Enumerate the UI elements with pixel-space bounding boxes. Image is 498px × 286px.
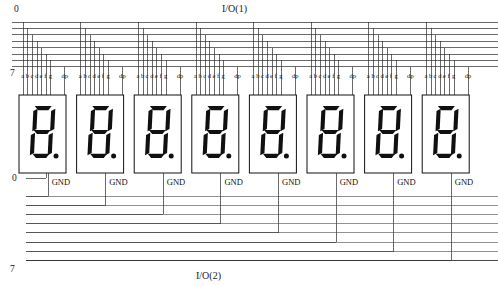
display-6-pin-label-dp: dp xyxy=(407,72,414,79)
top-bus-index-first: 0 xyxy=(14,4,19,14)
display-7-gnd-label: GND xyxy=(455,177,473,187)
display-1-decimal-point xyxy=(111,154,116,159)
display-6-pin-label-a: a xyxy=(367,72,370,79)
display-3-pin-label-dp: dp xyxy=(234,72,241,79)
display-4-pin-label-c: c xyxy=(261,72,264,79)
display-3-pin-label-g: g xyxy=(222,72,226,79)
display-5-pin-label-f: f xyxy=(332,72,335,79)
display-0-pin-label-e: e xyxy=(40,72,43,79)
display-7-pin-label-dp: dp xyxy=(465,72,472,79)
display-7-pin-label-d: d xyxy=(438,72,442,79)
display-1-pin-label-c: c xyxy=(88,72,91,79)
display-3-decimal-point xyxy=(226,154,231,159)
display-1-pin-label-a: a xyxy=(79,72,82,79)
display-6-pin-label-g: g xyxy=(394,72,398,79)
display-6-pin-label-b: b xyxy=(371,72,375,79)
display-0-pin-label-f: f xyxy=(44,72,47,79)
display-0-gnd-label: GND xyxy=(52,177,70,187)
display-7-pin-label-a: a xyxy=(424,72,427,79)
display-5-pin-label-dp: dp xyxy=(350,72,357,79)
seven-segment-display-5 xyxy=(307,95,354,173)
display-5-pin-label-g: g xyxy=(337,72,341,79)
seven-segment-display-7 xyxy=(422,95,469,173)
display-7-decimal-point xyxy=(457,154,462,159)
display-2-pin-label-a: a xyxy=(136,72,139,79)
display-5-pin-label-c: c xyxy=(318,72,321,79)
seven-segment-bus-diagram: 07I/O(1)abcdefgdpabcdefgdpabcdefgdpabcde… xyxy=(0,0,498,286)
display-3-pin-label-f: f xyxy=(217,72,220,79)
display-6-pin-label-d: d xyxy=(381,72,385,79)
display-0-pin-label-g: g xyxy=(49,72,53,79)
display-3-gnd-label: GND xyxy=(224,177,242,187)
display-5-pin-label-b: b xyxy=(314,72,318,79)
schematic-canvas: 07I/O(1)abcdefgdpabcdefgdpabcdefgdpabcde… xyxy=(0,0,498,286)
display-5-pin-label-d: d xyxy=(323,72,327,79)
display-2-pin-label-g: g xyxy=(164,72,168,79)
display-4-gnd-label: GND xyxy=(282,177,300,187)
bottom-bus-index-first: 0 xyxy=(12,173,17,183)
seven-segment-display-0 xyxy=(19,95,66,173)
display-0-pin-label-d: d xyxy=(35,72,39,79)
seven-segment-display-1 xyxy=(77,95,124,173)
display-4-pin-label-b: b xyxy=(256,72,260,79)
display-5-pin-label-a: a xyxy=(309,72,312,79)
display-7-pin-label-c: c xyxy=(434,72,437,79)
display-3-pin-label-c: c xyxy=(203,72,206,79)
display-1-pin-label-e: e xyxy=(97,72,100,79)
display-5-gnd-label: GND xyxy=(340,177,358,187)
display-4-pin-label-f: f xyxy=(275,72,278,79)
display-2-pin-label-c: c xyxy=(146,72,149,79)
display-3-pin-label-a: a xyxy=(194,72,197,79)
display-1-pin-label-g: g xyxy=(106,72,110,79)
display-0-decimal-point xyxy=(54,154,59,159)
display-1-pin-label-b: b xyxy=(83,72,87,79)
display-2-pin-label-d: d xyxy=(150,72,154,79)
display-1-pin-label-f: f xyxy=(102,72,105,79)
top-bus-index-last: 7 xyxy=(10,68,15,78)
display-7-pin-label-e: e xyxy=(443,72,446,79)
display-3-pin-label-d: d xyxy=(208,72,212,79)
display-2-gnd-label: GND xyxy=(167,177,185,187)
display-7-pin-label-b: b xyxy=(429,72,433,79)
seven-segment-display-2 xyxy=(134,95,181,173)
display-4-pin-label-dp: dp xyxy=(292,72,299,79)
display-2-pin-label-f: f xyxy=(159,72,162,79)
display-6-pin-label-c: c xyxy=(376,72,379,79)
display-1-gnd-label: GND xyxy=(109,177,127,187)
display-0-pin-label-a: a xyxy=(21,72,24,79)
display-7-pin-label-f: f xyxy=(447,72,450,79)
display-4-pin-label-e: e xyxy=(270,72,273,79)
display-2-decimal-point xyxy=(169,154,174,159)
seven-segment-display-4 xyxy=(249,95,296,173)
display-6-gnd-label: GND xyxy=(397,177,415,187)
display-6-decimal-point xyxy=(399,154,404,159)
display-4-pin-label-a: a xyxy=(252,72,255,79)
display-2-pin-label-e: e xyxy=(155,72,158,79)
top-bus-title: I/O(1) xyxy=(222,3,247,15)
bottom-bus-index-last: 7 xyxy=(10,264,15,274)
display-7-pin-label-g: g xyxy=(452,72,456,79)
display-4-pin-label-d: d xyxy=(265,72,269,79)
display-3-pin-label-b: b xyxy=(199,72,203,79)
display-6-pin-label-e: e xyxy=(385,72,388,79)
display-3-pin-label-e: e xyxy=(212,72,215,79)
display-0-pin-label-b: b xyxy=(26,72,30,79)
bottom-bus-title: I/O(2) xyxy=(196,270,221,282)
display-4-pin-label-g: g xyxy=(279,72,283,79)
seven-segment-display-6 xyxy=(365,95,412,173)
display-0-pin-label-c: c xyxy=(30,72,33,79)
seven-segment-display-3 xyxy=(192,95,239,173)
display-1-pin-label-d: d xyxy=(93,72,97,79)
display-2-pin-label-b: b xyxy=(141,72,145,79)
display-0-pin-label-dp: dp xyxy=(62,72,69,79)
display-6-pin-label-f: f xyxy=(390,72,393,79)
display-5-pin-label-e: e xyxy=(328,72,331,79)
display-1-pin-label-dp: dp xyxy=(119,72,126,79)
display-2-pin-label-dp: dp xyxy=(177,72,184,79)
display-5-decimal-point xyxy=(342,154,347,159)
display-4-decimal-point xyxy=(284,154,289,159)
